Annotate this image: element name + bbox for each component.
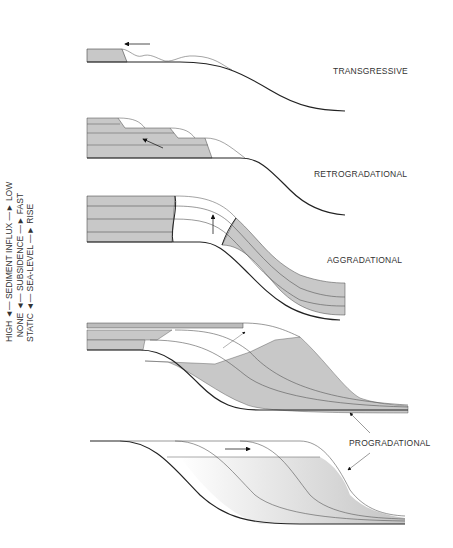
panel-progradational-upper xyxy=(87,323,408,413)
panel-progradational-lower xyxy=(90,441,405,524)
panel-aggradational xyxy=(87,196,345,320)
panel-transgressive xyxy=(87,44,345,111)
pointer-arrow-icon xyxy=(348,453,370,470)
label-progradational: PROGRADATIONAL xyxy=(349,438,431,448)
stratigraphy-diagram xyxy=(0,0,453,548)
arrow-icon xyxy=(223,332,245,348)
label-transgressive: TRANSGRESSIVE xyxy=(333,66,408,76)
label-aggradational: AGGRADATIONAL xyxy=(327,255,402,265)
pointer-arrow-icon xyxy=(350,413,370,433)
label-retrogradational: RETROGRADATIONAL xyxy=(314,169,407,179)
